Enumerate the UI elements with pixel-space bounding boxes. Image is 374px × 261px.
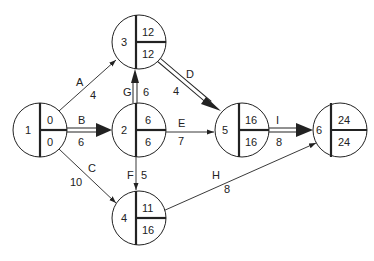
late-time: 12 xyxy=(142,48,154,60)
activity-duration: 10 xyxy=(70,176,82,188)
node-number: 3 xyxy=(121,36,127,48)
activity-label: C xyxy=(88,162,96,174)
late-time: 0 xyxy=(47,136,53,148)
activity-label: A xyxy=(76,76,84,88)
node-number: 5 xyxy=(222,124,228,136)
late-time: 24 xyxy=(338,136,350,148)
activity-C: C 10 xyxy=(59,149,116,203)
activity-duration: 7 xyxy=(178,135,184,147)
activity-B: B 6 xyxy=(64,114,112,148)
early-time: 0 xyxy=(47,114,53,126)
activity-label: I xyxy=(276,114,279,126)
node-6: 6 24 24 xyxy=(313,103,367,157)
early-time: 24 xyxy=(338,114,350,126)
early-time: 12 xyxy=(142,26,154,38)
node-1: 1 0 0 xyxy=(13,103,67,157)
node-number: 6 xyxy=(316,124,322,136)
activity-duration: 6 xyxy=(143,86,149,98)
activity-duration: 6 xyxy=(78,136,84,148)
late-time: 6 xyxy=(145,136,151,148)
activity-I: I 8 xyxy=(268,114,313,148)
late-time: 16 xyxy=(245,136,257,148)
node-4: 4 11 16 xyxy=(112,191,166,245)
node-number: 4 xyxy=(121,212,127,224)
activity-duration: 8 xyxy=(276,136,282,148)
network-diagram: A 4 C 10 E 7 F 5 H 8 B 6 G 6 xyxy=(0,0,374,261)
activity-A: A 4 xyxy=(59,60,116,111)
activity-D: D 4 xyxy=(158,59,221,111)
activity-F: F 5 xyxy=(127,157,147,190)
activity-duration: 4 xyxy=(90,89,96,101)
activity-label: H xyxy=(212,169,220,181)
activity-duration: 5 xyxy=(141,169,147,181)
early-time: 16 xyxy=(245,114,257,126)
late-time: 16 xyxy=(142,224,154,236)
early-time: 11 xyxy=(142,202,153,214)
node-3: 3 12 12 xyxy=(112,15,166,69)
activity-label: E xyxy=(178,117,185,129)
activity-E: E 7 xyxy=(166,117,214,147)
node-number: 1 xyxy=(25,124,31,136)
activity-duration: 4 xyxy=(173,85,179,97)
activity-label: F xyxy=(127,169,134,181)
activity-label: D xyxy=(186,68,194,80)
activity-label: B xyxy=(78,114,85,126)
activity-G: G 6 xyxy=(123,69,149,104)
activity-duration: 8 xyxy=(224,183,230,195)
node-2: 2 6 6 xyxy=(112,103,166,157)
activity-label: G xyxy=(123,86,132,98)
node-5: 5 16 16 xyxy=(215,103,269,157)
early-time: 6 xyxy=(145,114,151,126)
node-number: 2 xyxy=(121,124,127,136)
